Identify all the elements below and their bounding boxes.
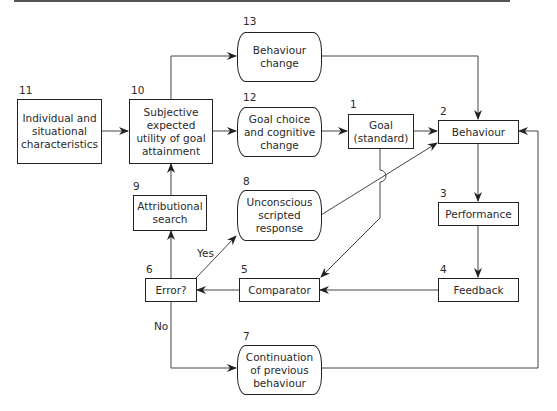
node-label: Goal choice and cognitive change: [244, 113, 315, 152]
node-unconscious-scripted-response: Unconscious scripted response: [237, 190, 322, 241]
node-label: Goal (standard): [354, 119, 409, 145]
node-label: Error?: [155, 284, 186, 297]
edge-label-yes: Yes: [197, 247, 214, 259]
node-number-13: 13: [243, 15, 256, 27]
node-label: Attributional search: [137, 200, 202, 226]
edge-7-2: [321, 131, 538, 368]
node-number-4: 4: [440, 263, 447, 275]
node-goal-choice-cognitive-change: Goal choice and cognitive change: [237, 107, 322, 157]
node-continuation-previous-behaviour: Continuation of previous behaviour: [237, 345, 322, 395]
node-number-10: 10: [131, 84, 144, 96]
node-individual-situational-characteristics: Individual and situational characteristi…: [17, 99, 102, 164]
node-behaviour: Behaviour: [438, 120, 519, 144]
edge-6-7: [171, 301, 236, 368]
node-behaviour-change: Behaviour change: [237, 32, 322, 82]
node-number-6: 6: [146, 263, 153, 275]
node-error-decision: Error?: [145, 278, 197, 302]
node-label: Behaviour: [452, 126, 505, 139]
node-number-8: 8: [243, 175, 250, 187]
node-label: Unconscious scripted response: [247, 196, 313, 235]
edge-10-13: [171, 56, 236, 99]
node-number-1: 1: [350, 98, 357, 110]
node-number-9: 9: [133, 180, 140, 192]
edge-1-5: [321, 148, 386, 277]
node-label: Continuation of previous behaviour: [246, 351, 313, 390]
node-attributional-search: Attributional search: [133, 195, 207, 231]
node-label: Comparator: [248, 284, 311, 297]
node-number-2: 2: [440, 105, 447, 117]
node-comparator: Comparator: [239, 278, 320, 302]
node-label: Individual and situational characteristi…: [21, 112, 98, 151]
node-number-3: 3: [440, 187, 447, 199]
node-number-12: 12: [243, 91, 256, 103]
node-subjective-expected-utility: Subjective expected utility of goal atta…: [129, 99, 213, 164]
node-label: Subjective expected utility of goal atta…: [136, 106, 205, 158]
node-performance: Performance: [438, 202, 519, 226]
node-goal-standard: Goal (standard): [348, 114, 414, 149]
edge-13-2: [321, 56, 478, 119]
node-number-5: 5: [241, 263, 248, 275]
node-number-7: 7: [243, 330, 250, 342]
edge-label-no: No: [154, 320, 168, 332]
node-label: Feedback: [453, 284, 503, 297]
node-number-11: 11: [19, 84, 32, 96]
node-label: Behaviour change: [253, 44, 306, 70]
node-label: Performance: [445, 208, 512, 221]
node-feedback: Feedback: [438, 278, 519, 302]
edge-8-2: [321, 143, 437, 215]
